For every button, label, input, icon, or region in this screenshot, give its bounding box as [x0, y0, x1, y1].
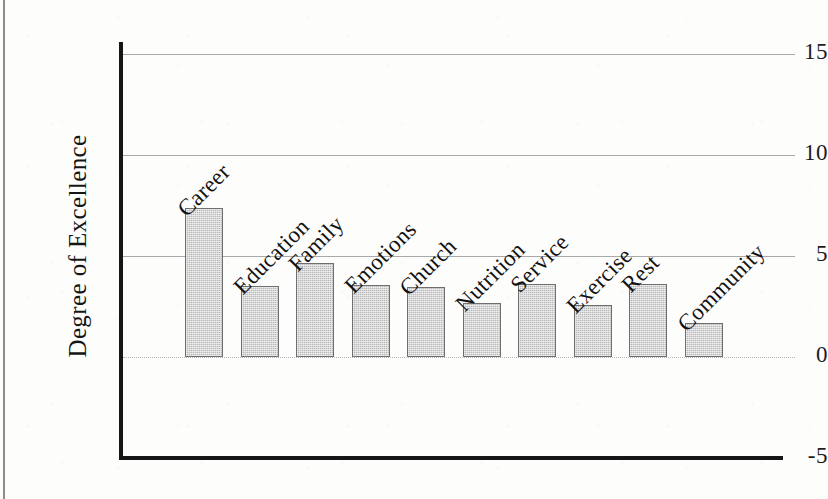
- y-axis-title: Degree of Excellence: [64, 116, 92, 376]
- gridline-10: [123, 155, 795, 156]
- gridline-0: [123, 357, 795, 358]
- y-tick-label-15: 15: [718, 39, 828, 65]
- y-axis-line: [119, 42, 123, 460]
- gridline-5: [123, 256, 795, 257]
- y-tick-label-10: 10: [718, 140, 828, 166]
- chart-page: 151050-5 Degree of Excellence CareerEduc…: [0, 0, 828, 499]
- bar-chart-plot: 151050-5 Degree of Excellence CareerEduc…: [0, 0, 828, 499]
- y-tick-label-0: 0: [718, 342, 828, 368]
- gridline-15: [123, 54, 795, 55]
- bar-career: [185, 208, 223, 357]
- x-axis-line: [119, 456, 783, 460]
